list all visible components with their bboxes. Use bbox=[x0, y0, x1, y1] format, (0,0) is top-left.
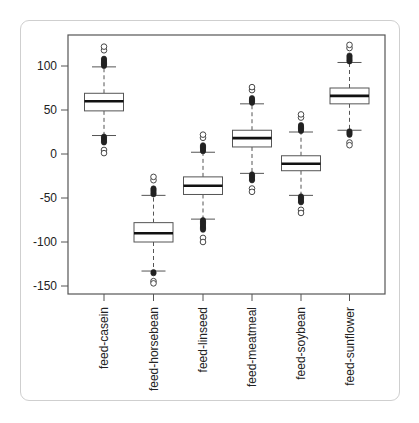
box-series bbox=[85, 42, 370, 286]
y-tick-label: -150 bbox=[33, 279, 57, 293]
y-tick-label: -100 bbox=[33, 235, 57, 249]
box-feed-casein bbox=[85, 44, 124, 156]
x-tick-label: feed-horsebean bbox=[147, 307, 161, 391]
x-tick-label: feed-sunflower bbox=[343, 307, 357, 386]
y-axis: 100500-50-100-150 bbox=[33, 59, 68, 293]
plot-frame bbox=[68, 35, 385, 294]
x-tick-label: feed-soybean bbox=[294, 307, 308, 380]
y-tick-label: 0 bbox=[50, 147, 57, 161]
box-feed-horsebean bbox=[134, 174, 173, 286]
box-feed-sunflower bbox=[330, 42, 369, 148]
box-feed-linseed bbox=[184, 132, 223, 245]
y-tick-label: 50 bbox=[44, 103, 58, 117]
x-tick-label: feed-meatmeal bbox=[245, 307, 259, 387]
x-tick-label: feed-casein bbox=[97, 307, 111, 369]
y-tick-label: -50 bbox=[40, 191, 58, 205]
y-tick-label: 100 bbox=[37, 59, 57, 73]
box-feed-meatmeal bbox=[233, 84, 272, 194]
box-feed-soybean bbox=[282, 112, 321, 216]
x-tick-label: feed-linseed bbox=[196, 307, 210, 372]
x-axis: feed-caseinfeed-horsebeanfeed-linseedfee… bbox=[97, 294, 357, 391]
boxplot-chart: 100500-50-100-150 feed-caseinfeed-horseb… bbox=[0, 0, 419, 423]
